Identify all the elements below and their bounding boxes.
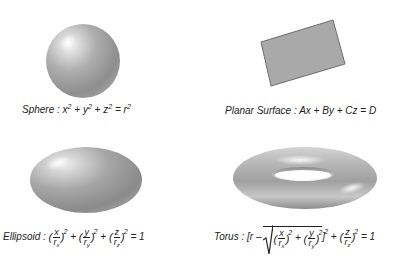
fraction-z: zrz (344, 228, 351, 247)
planar-surface-name: Planar Surface (225, 105, 291, 116)
sphere-name: Sphere (22, 104, 54, 115)
fraction-y: yry (308, 229, 315, 248)
ellipsoid-name: Ellipsoid (3, 231, 40, 242)
sphere-equation-label: Sphere : x2 + y2 + z2 = r2 (22, 104, 131, 116)
torus-name: Torus (214, 231, 239, 242)
fraction-y: yry (83, 228, 90, 247)
square-root: (xrx)2 + (yry)2 (263, 226, 322, 248)
fraction-x: xrx (278, 229, 285, 248)
radical-sign-icon (263, 225, 273, 255)
torus-shape (233, 147, 377, 209)
sphere-shape (46, 24, 120, 98)
torus-equation-label: Torus : [r –(xrx)2 + (yry)2]2 + (zrz)2 =… (214, 226, 375, 248)
fraction-z: zrz (114, 228, 121, 247)
planar-surface-shape (261, 20, 345, 86)
planar-surface-equation-label: Planar Surface : Ax + By + Cz = D (225, 105, 376, 117)
fraction-x: xrx (53, 228, 60, 247)
ellipsoid-shape (30, 147, 142, 213)
ellipsoid-equation-label: Ellipsoid : (xrx)2 + (yry)2 + (zrz)2 = 1 (3, 226, 145, 247)
